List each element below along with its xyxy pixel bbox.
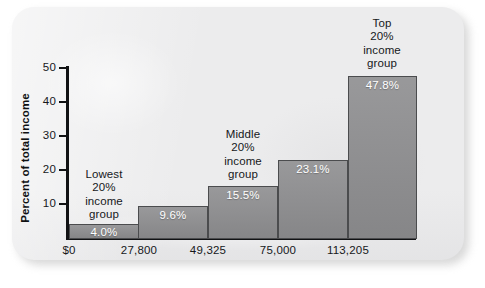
x-tick-label-49325: 49,325 xyxy=(178,244,238,256)
bar-value-lowest-20: 4.0% xyxy=(69,226,139,238)
annotation-lowest-income-group: Lowest 20% income group xyxy=(68,168,140,222)
annotation-top-income-group: Top 20% income group xyxy=(347,17,417,71)
y-tick-label-10: 10 xyxy=(36,197,56,209)
plot-area: Percent of total income 50 40 30 20 10 4… xyxy=(0,0,485,288)
y-tick-30 xyxy=(59,135,67,137)
y-tick-label-50: 50 xyxy=(36,61,56,73)
x-tick-label-113205: 113,205 xyxy=(316,244,380,256)
bar-value-second-20: 9.6% xyxy=(138,209,208,221)
y-tick-10 xyxy=(59,203,67,205)
y-tick-50 xyxy=(59,67,67,69)
income-distribution-figure: Percent of total income 50 40 30 20 10 4… xyxy=(0,0,485,288)
bar-top-20 xyxy=(348,76,417,239)
bar-value-middle-20: 15.5% xyxy=(208,189,278,201)
y-tick-label-40: 40 xyxy=(36,95,56,107)
x-tick-label-27800: 27,800 xyxy=(109,244,169,256)
y-tick-40 xyxy=(59,101,67,103)
x-tick-label-0: $0 xyxy=(49,244,89,256)
y-tick-20 xyxy=(59,169,67,171)
bar-value-fourth-20: 23.1% xyxy=(278,163,348,175)
annotation-middle-income-group: Middle 20% income group xyxy=(207,128,279,182)
bar-value-top-20: 47.8% xyxy=(348,79,417,91)
y-tick-label-30: 30 xyxy=(36,129,56,141)
x-tick-label-75000: 75,000 xyxy=(248,244,308,256)
y-axis-title: Percent of total income xyxy=(19,73,31,243)
y-tick-label-20: 20 xyxy=(36,163,56,175)
